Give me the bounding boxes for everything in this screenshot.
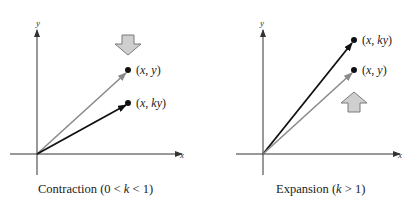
expansion-caption: Expansion (k > 1) [276, 182, 365, 196]
point-x-y [125, 67, 131, 73]
up-arrow-icon [341, 92, 367, 112]
point-x-ky [351, 37, 357, 43]
point-x-y [351, 67, 357, 73]
label-x-y: (x, y) [136, 63, 161, 77]
point-x-ky [125, 100, 131, 106]
original-vector [37, 73, 126, 154]
x-axis-label: x [397, 150, 402, 160]
label-x-ky: (x, ky) [362, 33, 392, 47]
down-arrow-icon [115, 35, 141, 55]
original-vector [263, 73, 352, 154]
diagram: x y (x, y) (x, ky) Contraction (0 < k < … [0, 0, 416, 206]
y-axis-label: y [35, 18, 40, 28]
contraction-panel: x y (x, y) (x, ky) Contraction (0 < k < … [10, 18, 184, 196]
y-axis-label: y [259, 18, 264, 28]
label-x-ky: (x, ky) [136, 96, 166, 110]
expansion-panel: x y (x, ky) (x, y) Expansion (k > 1) [236, 18, 402, 196]
contracted-vector [37, 105, 126, 154]
label-x-y: (x, y) [362, 63, 387, 77]
expanded-vector [263, 43, 352, 154]
x-axis-label: x [179, 150, 184, 160]
contraction-caption: Contraction (0 < k < 1) [38, 182, 153, 196]
